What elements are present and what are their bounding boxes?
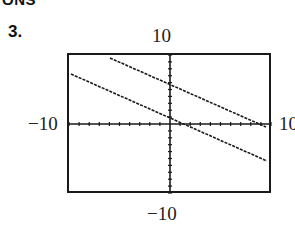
window-frame [68, 54, 270, 192]
graph-window [0, 0, 295, 233]
lower-line [71, 74, 267, 161]
upper-line [110, 58, 266, 127]
axes [69, 55, 271, 193]
